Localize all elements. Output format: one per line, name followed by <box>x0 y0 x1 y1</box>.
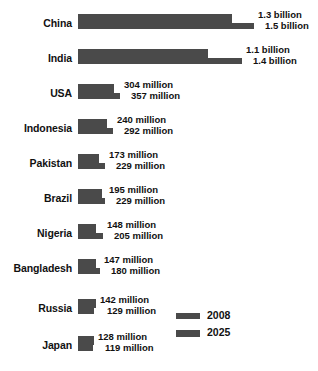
bar-2008 <box>78 224 96 233</box>
value-2025: 229 million <box>109 196 165 207</box>
value-2008: 240 million <box>117 115 173 126</box>
value-labels: 147 million180 million <box>104 255 160 276</box>
value-2008: 1.3 billion <box>258 10 309 21</box>
country-label: India <box>0 52 72 64</box>
value-labels: 142 million129 million <box>100 295 156 316</box>
country-label: Pakistan <box>0 157 72 169</box>
bar-2025 <box>78 198 105 204</box>
value-2025: 292 million <box>117 126 173 137</box>
value-2025: 129 million <box>100 306 156 317</box>
legend-label-2008: 2008 <box>207 309 230 321</box>
value-2025: 180 million <box>104 266 160 277</box>
chart-row: Russia142 million129 million <box>0 299 318 329</box>
country-label: USA <box>0 87 72 99</box>
bar-2008 <box>78 259 96 268</box>
country-label: China <box>0 17 72 29</box>
bar-2025 <box>78 268 100 274</box>
bar-2025 <box>78 308 94 314</box>
value-labels: 1.3 billion1.5 billion <box>258 10 309 31</box>
value-2008: 147 million <box>104 255 160 266</box>
population-bar-chart: China1.3 billion1.5 billionIndia1.1 bill… <box>0 0 318 371</box>
value-2008: 142 million <box>100 295 156 306</box>
bar-2008 <box>78 14 232 23</box>
value-2008: 195 million <box>109 185 165 196</box>
bar-2025 <box>78 23 254 29</box>
value-2025: 229 million <box>109 161 165 172</box>
legend-swatch-2025 <box>176 330 200 337</box>
legend-label-2025: 2025 <box>207 326 230 338</box>
value-2025: 1.4 billion <box>246 56 297 67</box>
chart-row: China1.3 billion1.5 billion <box>0 14 318 44</box>
value-2008: 1.1 billion <box>246 45 297 56</box>
bar-2008 <box>78 119 107 128</box>
value-2008: 148 million <box>107 220 163 231</box>
bar-2008 <box>78 336 94 345</box>
value-labels: 148 million205 million <box>107 220 163 241</box>
chart-row: India1.1 billion1.4 billion <box>0 49 318 79</box>
chart-row: Brazil195 million229 million <box>0 189 318 219</box>
bar-2025 <box>78 58 242 64</box>
country-label: Indonesia <box>0 122 72 134</box>
value-2008: 128 million <box>98 332 154 343</box>
country-label: Bangladesh <box>0 262 72 274</box>
country-label: Japan <box>0 339 72 351</box>
chart-row: Indonesia240 million292 million <box>0 119 318 149</box>
value-labels: 195 million229 million <box>109 185 165 206</box>
bar-2008 <box>78 49 208 58</box>
value-labels: 173 million229 million <box>109 150 165 171</box>
bar-2008 <box>78 154 99 163</box>
bar-2025 <box>78 345 93 351</box>
value-2025: 357 million <box>124 91 180 102</box>
value-2008: 173 million <box>109 150 165 161</box>
chart-row: Pakistan173 million229 million <box>0 154 318 184</box>
chart-row: Japan128 million119 million <box>0 336 318 366</box>
chart-row: USA304 million357 million <box>0 84 318 114</box>
bar-2025 <box>78 128 113 134</box>
bar-2025 <box>78 93 120 99</box>
bar-2025 <box>78 163 105 169</box>
bar-2008 <box>78 299 96 308</box>
value-2025: 205 million <box>107 231 163 242</box>
chart-row: Bangladesh147 million180 million <box>0 259 318 289</box>
value-2025: 119 million <box>98 343 154 354</box>
value-labels: 240 million292 million <box>117 115 173 136</box>
value-labels: 128 million119 million <box>98 332 154 353</box>
bar-2008 <box>78 189 102 198</box>
country-label: Russia <box>0 302 72 314</box>
value-2008: 304 million <box>124 80 180 91</box>
chart-row: Nigeria148 million205 million <box>0 224 318 254</box>
country-label: Brazil <box>0 192 72 204</box>
bar-2008 <box>78 84 114 93</box>
value-2025: 1.5 billion <box>258 21 309 32</box>
value-labels: 304 million357 million <box>124 80 180 101</box>
value-labels: 1.1 billion1.4 billion <box>246 45 297 66</box>
bar-2025 <box>78 233 103 239</box>
country-label: Nigeria <box>0 227 72 239</box>
legend-swatch-2008 <box>176 313 200 319</box>
